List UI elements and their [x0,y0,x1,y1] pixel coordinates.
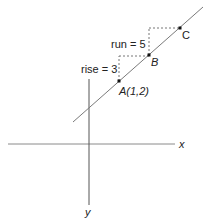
point-a [118,80,121,83]
run-label: run = 5 [111,38,146,50]
point-b-label: B [151,56,158,68]
slope-diagram: rise = 3 run = 5 A(1,2) B C x y [0,0,206,224]
x-axis-label: x [178,138,185,150]
rise-label: rise = 3 [81,63,117,75]
point-c-label: C [182,29,190,41]
y-axis-label: y [84,206,92,218]
point-a-label: A(1,2) [118,85,149,97]
